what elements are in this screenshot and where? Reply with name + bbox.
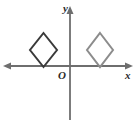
y-axis-label: y	[61, 2, 68, 14]
coordinate-plane-svg: y x O	[0, 0, 139, 120]
coordinate-plane-figure: y x O	[0, 0, 139, 120]
right-diamond-shape	[87, 33, 113, 67]
origin-label: O	[58, 69, 66, 81]
x-axis-label: x	[124, 69, 131, 81]
left-diamond-shape	[30, 33, 57, 67]
x-axis-left-arrow-icon	[3, 63, 11, 70]
